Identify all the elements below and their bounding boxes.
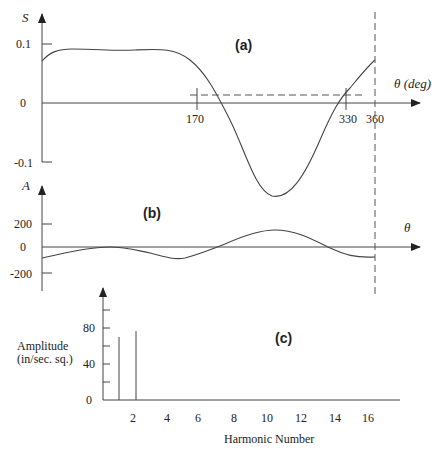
x-tick-label-10: 10 xyxy=(261,411,273,425)
y-tick-label-a-zero: 0 xyxy=(20,96,26,110)
plot-c: 80 40 0 Amplitude (in/sec. sq.) (c) 2 4 … xyxy=(17,288,400,446)
x-tick-label-14: 14 xyxy=(329,411,341,425)
panel-label-b: (b) xyxy=(143,205,161,221)
x-tick-label-6: 6 xyxy=(195,411,201,425)
y-tick-label-b-hi: 200 xyxy=(14,217,32,231)
y-label-c-line1: Amplitude xyxy=(17,339,68,353)
y-tick-label-a-hi: 0.1 xyxy=(16,37,31,51)
y-tick-label-a-lo: -0.1 xyxy=(14,156,33,170)
plot-a: S 0.1 0 -0.1 (a) θ (deg) 170 330 360 xyxy=(14,10,431,294)
y-label-c-line2: (in/sec. sq.) xyxy=(17,352,73,366)
y-label-b: A xyxy=(21,178,30,193)
annotation-330: 330 xyxy=(339,112,357,126)
plot-b: A 200 0 -200 (b) θ xyxy=(10,178,420,291)
x-tick-label-2: 2 xyxy=(130,411,136,425)
annotation-170: 170 xyxy=(186,112,204,126)
y-tick-label-b-zero: 0 xyxy=(20,240,26,254)
curve-a xyxy=(42,230,375,259)
y-tick-label-c-40: 40 xyxy=(83,357,95,371)
x-label-c: Harmonic Number xyxy=(224,432,314,446)
y-label-a: S xyxy=(22,10,29,25)
panel-label-c: (c) xyxy=(275,330,292,346)
y-tick-label-c-0: 0 xyxy=(86,393,92,407)
annotation-360: 360 xyxy=(366,112,384,126)
x-tick-label-4: 4 xyxy=(164,411,170,425)
figure: S 0.1 0 -0.1 (a) θ (deg) 170 330 360 A 2… xyxy=(0,0,432,452)
panel-label-a: (a) xyxy=(235,37,252,53)
x-tick-label-8: 8 xyxy=(231,411,237,425)
y-tick-label-c-80: 80 xyxy=(83,321,95,335)
x-label-b: θ xyxy=(404,220,411,235)
x-tick-label-16: 16 xyxy=(362,411,374,425)
y-tick-label-b-lo: -200 xyxy=(10,267,32,281)
x-tick-label-12: 12 xyxy=(295,411,307,425)
curve-s xyxy=(42,49,375,196)
x-label-a: θ (deg) xyxy=(394,76,431,91)
